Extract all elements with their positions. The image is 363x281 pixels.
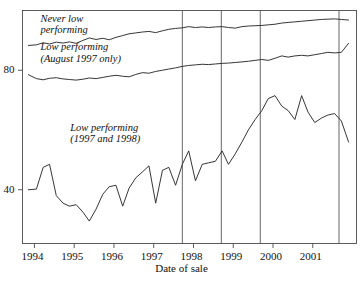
chart-figure: 408019941995199619971998199920002001Neve… xyxy=(0,0,363,281)
y-tick-label-80: 80 xyxy=(0,63,15,75)
axis-ticks xyxy=(18,70,313,248)
x-tick-label-1997: 1997 xyxy=(132,250,172,262)
x-tick-label-1998: 1998 xyxy=(171,250,211,262)
x-tick-label-2001: 2001 xyxy=(291,250,331,262)
annotation-line: (August 1997 only) xyxy=(40,53,121,65)
x-tick-label-2000: 2000 xyxy=(251,250,291,262)
annotation-line: Low performing xyxy=(40,41,121,53)
y-tick-label-40: 40 xyxy=(0,183,15,195)
x-axis-title: Date of sale xyxy=(0,262,363,274)
annotation-line: (1997 and 1998) xyxy=(70,133,140,145)
annotation-line: performing xyxy=(40,24,87,36)
x-tick-label-1999: 1999 xyxy=(211,250,251,262)
annotation-low-performing-august-1997-only: Low performing(August 1997 only) xyxy=(40,41,121,64)
annotation-never-low-performing: Never lowperforming xyxy=(40,13,87,36)
series-line-2 xyxy=(28,96,348,221)
annotation-line: Never low xyxy=(40,13,87,25)
annotation-low-performing-1997-and-1998: Low performing(1997 and 1998) xyxy=(70,122,140,145)
annotation-line: Low performing xyxy=(70,122,140,134)
x-tick-label-1994: 1994 xyxy=(12,250,52,262)
vertical-reference-lines xyxy=(182,11,339,244)
x-tick-label-1995: 1995 xyxy=(52,250,92,262)
x-tick-label-1996: 1996 xyxy=(92,250,132,262)
